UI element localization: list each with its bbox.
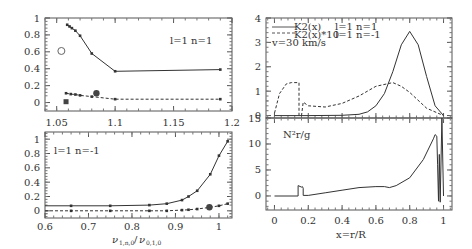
data-point bbox=[209, 173, 212, 176]
y-tick-label: 0.4 bbox=[24, 177, 40, 188]
data-point bbox=[71, 27, 74, 30]
series-dashed bbox=[45, 204, 228, 211]
y-tick-label: 0.2 bbox=[24, 191, 40, 202]
y-tick-label: 0 bbox=[34, 97, 40, 108]
y-tick-label: 0.2 bbox=[24, 80, 40, 91]
data-point bbox=[69, 93, 72, 96]
data-point bbox=[109, 205, 112, 208]
data-point bbox=[79, 34, 82, 37]
y-tick-label: 5 bbox=[255, 164, 261, 175]
data-point bbox=[181, 209, 184, 212]
data-point bbox=[219, 68, 222, 71]
x-tick-label: 0.2 bbox=[300, 215, 316, 226]
data-point bbox=[65, 92, 68, 95]
x-tick-label: 0.8 bbox=[124, 221, 140, 232]
x-tick-label: 0.8 bbox=[402, 215, 418, 226]
panel-bottom-right: 05101500.20.40.60.81 bbox=[248, 113, 452, 227]
data-point bbox=[114, 70, 117, 73]
filled-circle-marker bbox=[93, 90, 99, 96]
xlabel-nu-2: ν bbox=[139, 234, 145, 245]
data-point bbox=[218, 154, 221, 157]
filled-circle-marker bbox=[206, 204, 212, 210]
data-point bbox=[114, 98, 117, 101]
data-point bbox=[79, 94, 82, 97]
data-point bbox=[226, 140, 229, 143]
open-circle-marker bbox=[58, 47, 65, 54]
figure: 00.20.40.60.811.051.11.151.2 00.20.40.60… bbox=[0, 0, 472, 249]
x-tick-label: 0.7 bbox=[81, 221, 97, 232]
data-point bbox=[66, 23, 69, 26]
x-tick-label: 0 bbox=[271, 215, 277, 226]
y-tick-label: 3 bbox=[255, 37, 261, 48]
data-point bbox=[109, 210, 112, 213]
series-dashed bbox=[66, 93, 220, 99]
y-tick-label: 1 bbox=[34, 134, 40, 145]
x-tick-label: 1.05 bbox=[46, 117, 68, 128]
y-tick-label: 0.8 bbox=[24, 148, 40, 159]
xlabel-sep: / bbox=[134, 234, 138, 245]
x-tick-label: 1.1 bbox=[107, 117, 123, 128]
xlabel-sub-1: 1,n,0 bbox=[119, 239, 134, 246]
data-point bbox=[74, 29, 77, 32]
data-point bbox=[165, 210, 168, 213]
y-tick-label: 2 bbox=[255, 61, 261, 72]
y-tick-label: 1 bbox=[255, 86, 261, 97]
x-tick-label: 1.15 bbox=[162, 117, 184, 128]
data-point bbox=[74, 93, 77, 96]
plot-frame bbox=[45, 18, 232, 111]
panel-top-left: 00.20.40.60.811.051.11.151.2 bbox=[24, 13, 240, 129]
data-point bbox=[148, 204, 151, 207]
x-tick-label: 1.2 bbox=[224, 117, 240, 128]
data-point bbox=[196, 208, 199, 211]
y-tick-label: 1 bbox=[34, 13, 40, 24]
data-point bbox=[165, 202, 168, 205]
x-tick-label: 1 bbox=[216, 221, 222, 232]
y-tick-label: 0.6 bbox=[24, 162, 40, 173]
data-point bbox=[187, 208, 190, 211]
data-point bbox=[90, 95, 93, 98]
data-point bbox=[148, 210, 151, 213]
data-point bbox=[219, 98, 222, 101]
legend-dashed-desc: l=1 n=-1 bbox=[335, 29, 381, 40]
data-point bbox=[196, 189, 199, 192]
y-tick-label: 15 bbox=[248, 113, 261, 124]
y-tick-label: 4 bbox=[255, 13, 261, 24]
x-tick-label: 0.6 bbox=[37, 221, 53, 232]
y-tick-label: 0.6 bbox=[24, 46, 40, 57]
y-tick-label: 0 bbox=[34, 205, 40, 216]
x-tick-label: 0.6 bbox=[368, 215, 384, 226]
y-tick-label: 10 bbox=[248, 138, 261, 149]
bl-xlabel: ν 1,n,0 / ν 0,1,0 bbox=[112, 234, 161, 246]
filled-square-marker bbox=[64, 99, 69, 104]
data-point bbox=[90, 52, 93, 55]
data-point bbox=[226, 202, 229, 205]
data-point bbox=[70, 205, 73, 208]
br-annotation: N²r/g bbox=[283, 129, 311, 140]
x-tick-label: 1 bbox=[440, 215, 446, 226]
xlabel-sub-2: 0,1,0 bbox=[146, 239, 161, 246]
br-xlabel: x=r/R bbox=[336, 229, 366, 240]
tr-legend: K2(x) K2(x)*10 l=1 n=1 l=1 n=-1 v=30 km/… bbox=[271, 21, 381, 48]
y-tick-label: 0.8 bbox=[24, 29, 40, 40]
x-tick-label: 0.9 bbox=[168, 221, 184, 232]
series-solid bbox=[67, 25, 220, 72]
y-tick-label: 0.4 bbox=[24, 63, 40, 74]
velocity-label: v=30 km/s bbox=[271, 37, 326, 48]
data-point bbox=[70, 210, 73, 213]
tl-annotation: l=1 n=1 bbox=[170, 35, 212, 46]
bl-annotation: l=1 n=-1 bbox=[54, 145, 100, 156]
x-tick-label: 0.4 bbox=[334, 215, 350, 226]
xlabel-nu-1: ν bbox=[112, 234, 118, 245]
y-tick-label: 0 bbox=[255, 190, 261, 201]
data-point bbox=[181, 199, 184, 202]
data-point bbox=[218, 205, 221, 208]
series-k2-x-10-l-1-n-1 bbox=[275, 83, 444, 116]
data-point bbox=[187, 195, 190, 198]
data-point bbox=[68, 25, 71, 28]
